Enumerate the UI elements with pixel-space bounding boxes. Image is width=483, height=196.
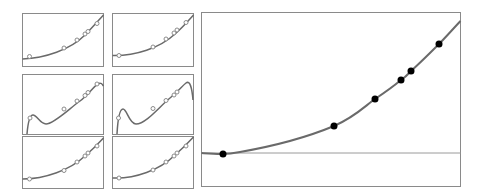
panel-4 [113,75,194,135]
panel-5 [23,137,104,189]
data-point [220,151,227,158]
main-panel [202,13,461,187]
data-point [436,41,443,48]
data-point [331,123,338,130]
data-point [372,96,379,103]
panel-1 [23,14,104,67]
figure [0,0,483,196]
panel-2 [113,14,194,67]
panel-6 [113,137,194,189]
data-point [408,68,415,75]
panel-3 [23,75,104,135]
data-point [398,77,405,84]
